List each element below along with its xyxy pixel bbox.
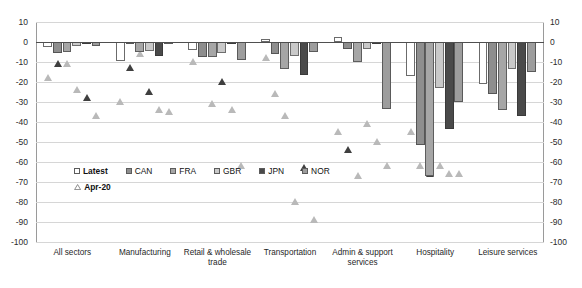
apr20-marker-0-1 — [54, 60, 62, 67]
apr20-marker-4-1 — [344, 146, 352, 153]
apr20-marker-0-4 — [83, 94, 91, 101]
bar-gbr-5 — [435, 42, 444, 88]
y-tick-label: 10 — [2, 18, 28, 27]
legend-label-fra: FRA — [179, 167, 196, 175]
bar-gbr-3 — [290, 42, 299, 56]
bar-nor-4 — [382, 42, 391, 109]
apr20-marker-0-2 — [63, 60, 71, 67]
bar-can-0 — [53, 42, 62, 53]
zero-baseline — [36, 42, 544, 43]
legend-item-nor: NOR — [302, 167, 330, 175]
category-label-6: Leisure services — [471, 248, 544, 258]
apr20-marker-2-3 — [218, 78, 226, 85]
y-tick-label: -100 — [2, 238, 28, 247]
y-tick-label: -50 — [2, 138, 28, 147]
apr20-marker-5-4 — [445, 170, 453, 177]
bar-can-5 — [416, 42, 425, 145]
bar-latest-1 — [116, 42, 125, 61]
y-tick-label: -70 — [550, 178, 576, 187]
category-label-5: Hospitality — [399, 248, 472, 258]
bar-fra-6 — [498, 42, 507, 110]
apr20-marker-2-2 — [208, 100, 216, 107]
apr20-marker-2-0 — [189, 58, 197, 65]
legend-item-apr20: Apr-20 — [74, 183, 111, 191]
category-label-2: Retail & wholesale trade — [181, 248, 254, 267]
apr20-marker-1-4 — [155, 106, 163, 113]
y-tick-label: -20 — [2, 78, 28, 87]
gbr-swatch — [214, 168, 220, 174]
legend-label-can: CAN — [135, 167, 153, 175]
gridline — [36, 242, 544, 243]
y-tick-label: 10 — [550, 18, 576, 27]
apr20-marker-3-1 — [271, 90, 279, 97]
bar-latest-6 — [479, 42, 488, 84]
apr20-marker-4-5 — [383, 162, 391, 169]
bar-fra-1 — [135, 42, 144, 52]
gridline — [36, 82, 544, 83]
bar-fra-5 — [425, 42, 434, 176]
nor-swatch — [302, 168, 308, 174]
fra-swatch — [170, 168, 176, 174]
bar-fra-2 — [208, 42, 217, 57]
y-tick-label: -20 — [550, 78, 576, 87]
bar-jpn-5 — [445, 42, 454, 129]
apr20-marker-4-3 — [363, 120, 371, 127]
apr20-marker-4-0 — [334, 128, 342, 135]
bar-gbr-1 — [145, 42, 154, 51]
apr20-marker-4-4 — [373, 138, 381, 145]
bar-can-3 — [271, 42, 280, 54]
bar-nor-3 — [309, 42, 318, 52]
bar-jpn-6 — [517, 42, 526, 116]
apr20-marker-1-1 — [126, 64, 134, 71]
legend-item-fra: FRA — [170, 167, 196, 175]
apr20-marker-5-1 — [416, 162, 424, 169]
category-label-1: Manufacturing — [109, 248, 182, 258]
gridline — [36, 222, 544, 223]
bar-gbr-6 — [508, 42, 517, 69]
gridline — [36, 122, 544, 123]
apr20-marker-0-3 — [73, 86, 81, 93]
bar-nor-2 — [237, 42, 246, 60]
y-tick-label: -60 — [2, 158, 28, 167]
legend-label-nor: NOR — [311, 167, 330, 175]
legend-label-gbr: GBR — [223, 167, 241, 175]
plot-area — [36, 22, 544, 242]
jpn-swatch — [259, 168, 265, 174]
y-tick-label: -80 — [2, 198, 28, 207]
legend-row-marker: Apr-20 — [74, 183, 129, 191]
apr20-marker-3-2 — [281, 112, 289, 119]
y-tick-label: 0 — [550, 38, 576, 47]
gridline — [36, 142, 544, 143]
legend-item-gbr: GBR — [214, 167, 241, 175]
chart-legend: LatestCANFRAGBRJPNNOR Apr-20 — [66, 167, 366, 199]
gridline — [36, 102, 544, 103]
bar-nor-5 — [454, 42, 463, 102]
y-tick-label: 0 — [2, 38, 28, 47]
legend-item-latest: Latest — [74, 167, 108, 175]
category-label-3: Transportation — [254, 248, 327, 258]
plot-left-border — [36, 22, 37, 242]
bar-can-6 — [488, 42, 497, 94]
y-tick-label: -30 — [2, 98, 28, 107]
y-tick-label: -10 — [2, 58, 28, 67]
legend-label-latest: Latest — [83, 167, 108, 175]
apr20-marker-1-5 — [165, 108, 173, 115]
triangle-outline-icon — [74, 184, 81, 190]
bar-gbr-2 — [217, 42, 226, 53]
bar-gbr-4 — [363, 42, 372, 49]
y-tick-label: -70 — [2, 178, 28, 187]
bar-can-2 — [198, 42, 207, 57]
gridline — [36, 22, 544, 23]
bar-fra-3 — [280, 42, 289, 69]
apr20-marker-1-0 — [116, 98, 124, 105]
category-label-4: Admin & support services — [326, 248, 399, 267]
bar-jpn-1 — [155, 42, 164, 56]
legend-label-jpn: JPN — [268, 167, 284, 175]
category-label-0: All sectors — [36, 248, 109, 258]
apr20-marker-3-0 — [262, 54, 270, 61]
y-tick-label: -40 — [2, 118, 28, 127]
y-tick-label: -90 — [2, 218, 28, 227]
apr20-marker-3-5 — [310, 216, 318, 223]
plot-right-border — [543, 22, 544, 242]
apr20-marker-2-4 — [228, 106, 236, 113]
